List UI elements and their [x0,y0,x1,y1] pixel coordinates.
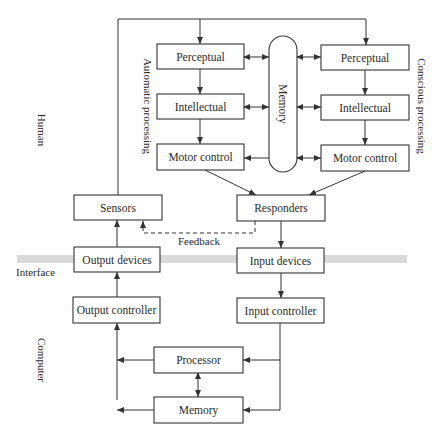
feedback-dashed-line [143,221,255,233]
svg-text:Perceptual: Perceptual [341,52,390,65]
svg-text:Sensors: Sensors [100,202,136,214]
svg-text:Motor control: Motor control [333,152,397,164]
region-label-human: Human [36,114,48,147]
region-label-interface: Interface [16,266,55,278]
svg-text:Input devices: Input devices [250,255,312,268]
conscious-processing-label: Conscious processing [416,58,428,154]
region-label-computer: Computer [36,338,48,382]
svg-text:Output controller: Output controller [77,304,157,317]
svg-text:Input controller: Input controller [245,305,317,318]
svg-text:Output devices: Output devices [82,254,152,267]
svg-text:Intellectual: Intellectual [339,102,391,114]
svg-text:Responders: Responders [254,202,308,215]
automatic-processing-label: Automatic processing [142,58,154,155]
human-memory-label: Memory [276,84,289,124]
svg-text:Perceptual: Perceptual [176,51,225,64]
svg-text:Processor: Processor [176,354,221,366]
feedback-label: Feedback [178,235,221,247]
svg-text:Motor control: Motor control [168,151,232,163]
svg-text:Memory: Memory [179,404,219,417]
human-computer-interaction-diagram: Human Interface Computer Automatic proce… [0,0,440,439]
svg-text:Intellectual: Intellectual [175,101,227,113]
